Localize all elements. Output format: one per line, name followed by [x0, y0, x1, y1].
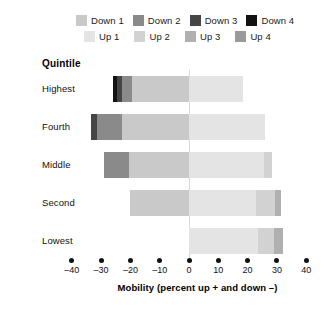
legend-label-down4: Down 4 [261, 15, 294, 26]
bar-segment-down2-middle [104, 152, 129, 178]
bar-segment-up2-middle [264, 152, 273, 178]
bar-segment-up1-second [189, 190, 256, 216]
bar-segment-up1-lowest [189, 228, 258, 254]
bar-negative-middle [104, 152, 189, 178]
x-tick-dot-icon [187, 258, 192, 263]
x-tick-dot-icon [128, 258, 133, 263]
legend-item-down1[interactable]: Down 1 [76, 15, 124, 26]
bar-positive-lowest [189, 228, 283, 254]
x-tick-dot-icon [69, 258, 74, 263]
x-tick-dot-icon [245, 258, 250, 263]
bar-segment-down2-fourth [97, 114, 122, 140]
bar-segment-up1-fourth [189, 114, 265, 140]
x-tick-dot-icon [274, 258, 279, 263]
legend-swatch-down1-icon [76, 15, 87, 26]
x-tick-label-0: 0 [175, 265, 203, 275]
x-tick-dot-icon [304, 258, 309, 263]
mobility-stacked-bar-chart: Down 1Down 2Down 3Down 4 Up 1Up 2Up 3Up … [0, 0, 333, 318]
x-tick-label--10: –10 [146, 265, 174, 275]
bar-segment-down1-highest [132, 76, 189, 102]
x-tick-label--20: –20 [116, 265, 144, 275]
category-label-middle: Middle [0, 146, 80, 184]
category-label-second: Second [0, 184, 80, 222]
legend-item-down4[interactable]: Down 4 [246, 15, 294, 26]
bar-row-middle: Middle [0, 146, 333, 184]
legend-swatch-down4-icon [246, 15, 257, 26]
bar-negative-second [130, 190, 189, 216]
bar-positive-fourth [189, 114, 265, 140]
bar-segment-down2-highest [122, 76, 132, 102]
bar-segment-up3-second [275, 190, 281, 216]
x-tick-dot-icon [216, 258, 221, 263]
bar-row-lowest: Lowest [0, 222, 333, 260]
category-label-highest: Highest [0, 70, 80, 108]
legend-item-down2[interactable]: Down 2 [133, 15, 181, 26]
bar-segment-down1-fourth [122, 114, 189, 140]
bar-segment-up2-second [256, 190, 275, 216]
category-label-lowest: Lowest [0, 222, 80, 260]
bar-negative-highest [113, 76, 189, 102]
legend-swatch-up1-icon [84, 31, 95, 42]
bar-segment-up1-highest [189, 76, 243, 102]
x-tick-label-30: 30 [263, 265, 291, 275]
x-tick-dot-icon [157, 258, 162, 263]
bar-row-fourth: Fourth [0, 108, 333, 146]
legend-item-up3[interactable]: Up 3 [185, 31, 220, 42]
bar-row-highest: Highest [0, 70, 333, 108]
bar-row-second: Second [0, 184, 333, 222]
bar-positive-highest [189, 76, 243, 102]
legend-item-down3[interactable]: Down 3 [190, 15, 238, 26]
bar-negative-fourth [91, 114, 189, 140]
quintile-heading: Quintile [42, 58, 81, 69]
legend-row-down: Down 1Down 2Down 3Down 4 [0, 12, 333, 28]
x-tick-label--30: –30 [87, 265, 115, 275]
x-axis: –40–30–20–10010203040 [0, 258, 333, 280]
legend-label-up3: Up 3 [200, 31, 220, 42]
bar-segment-up2-lowest [258, 228, 274, 254]
bar-positive-middle [189, 152, 273, 178]
legend-label-up2: Up 2 [149, 31, 169, 42]
x-tick-label-10: 10 [204, 265, 232, 275]
category-label-fourth: Fourth [0, 108, 80, 146]
legend-label-up4: Up 4 [250, 31, 270, 42]
bar-segment-up1-middle [189, 152, 264, 178]
legend-label-down3: Down 3 [205, 15, 238, 26]
x-tick-label--40: –40 [58, 265, 86, 275]
x-tick-label-20: 20 [234, 265, 262, 275]
legend-swatch-up3-icon [185, 31, 196, 42]
legend-label-down1: Down 1 [91, 15, 124, 26]
bar-segment-down1-middle [129, 152, 189, 178]
x-tick-label-40: 40 [292, 265, 320, 275]
legend-swatch-down2-icon [133, 15, 144, 26]
bar-segment-up3-lowest [274, 228, 283, 254]
legend-swatch-down3-icon [190, 15, 201, 26]
bar-segment-down1-second [130, 190, 189, 216]
legend-label-down2: Down 2 [148, 15, 181, 26]
footer-note [42, 306, 44, 315]
legend-item-up4[interactable]: Up 4 [235, 31, 270, 42]
legend-row-up: Up 1Up 2Up 3Up 4 [0, 28, 333, 44]
x-axis-title: Mobility (percent up + and down –) [0, 282, 333, 293]
legend-swatch-up4-icon [235, 31, 246, 42]
plot-area: HighestFourthMiddleSecondLowest [0, 70, 333, 255]
legend-swatch-up2-icon [134, 31, 145, 42]
bar-positive-second [189, 190, 281, 216]
legend-item-up2[interactable]: Up 2 [134, 31, 169, 42]
legend-label-up1: Up 1 [99, 31, 119, 42]
x-tick-dot-icon [99, 258, 104, 263]
legend-item-up1[interactable]: Up 1 [84, 31, 119, 42]
chart-legend: Down 1Down 2Down 3Down 4 Up 1Up 2Up 3Up … [0, 12, 333, 44]
